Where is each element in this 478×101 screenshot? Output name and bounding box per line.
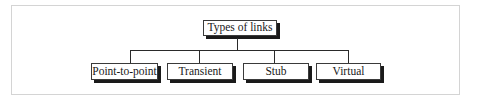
- child-node-label: Virtual: [333, 66, 365, 78]
- connector-to-transient: [199, 50, 200, 63]
- connector-to-stub: [274, 50, 275, 63]
- connector-to-point-to-point: [130, 50, 131, 63]
- child-node-transient: Transient: [167, 63, 233, 80]
- child-node-point-to-point: Point-to-point: [91, 63, 158, 80]
- root-node-label: Types of links: [208, 22, 273, 34]
- child-node-stub: Stub: [243, 63, 309, 80]
- child-node-label: Transient: [178, 66, 221, 78]
- root-node-types-of-links: Types of links: [203, 20, 277, 36]
- connector-to-virtual: [348, 50, 349, 63]
- child-node-virtual: Virtual: [316, 63, 381, 80]
- child-node-label: Stub: [265, 66, 286, 78]
- child-node-label: Point-to-point: [92, 66, 157, 78]
- connector-horizontal-bus: [130, 50, 349, 51]
